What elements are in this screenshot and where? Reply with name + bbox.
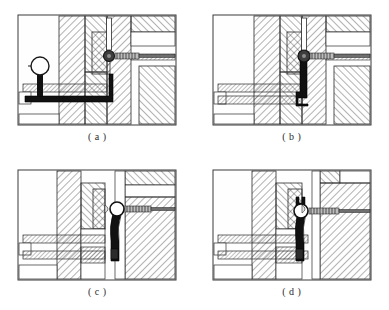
figure-c-drawing: [17, 169, 177, 281]
figure-panel-d: ( d ): [195, 155, 389, 310]
pivot-pin-core-b: [302, 54, 306, 58]
pivot-pin-core-a: [107, 54, 111, 58]
cross-section-svg-c: [17, 169, 177, 281]
figure-panel-c: ( c ): [0, 155, 195, 310]
figure-caption-d: ( d ): [282, 286, 301, 297]
figure-panel-b: ( b ): [195, 0, 389, 155]
figure-sheet: ( a ): [0, 0, 389, 310]
cross-section-svg-d: [212, 169, 372, 281]
lever-foot-c: [111, 249, 118, 259]
lever-foot-d: [296, 249, 303, 259]
pivot-pin-open-c: [110, 202, 124, 216]
figure-a-drawing: [17, 14, 177, 126]
figure-caption-b: ( b ): [282, 131, 301, 142]
figure-d-drawing: [212, 169, 372, 281]
pivot-pin-open-d: [294, 204, 308, 218]
cross-section-svg-a: [17, 14, 177, 126]
figure-b-drawing: [212, 14, 372, 126]
vertical-slot-b: [301, 18, 306, 50]
vertical-slot-a: [107, 18, 112, 50]
figure-caption-a: ( a ): [88, 131, 107, 142]
cross-section-svg-b: [212, 14, 372, 126]
figure-caption-c: ( c ): [88, 286, 107, 297]
figure-panel-a: ( a ): [0, 0, 195, 155]
